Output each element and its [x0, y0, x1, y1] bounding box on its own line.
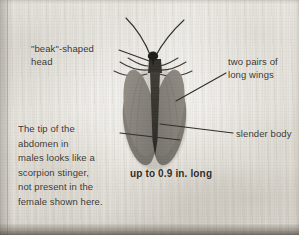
figure-page: "beak"-shaped head two pairs of long win…	[0, 0, 299, 235]
annotation-slender-body: slender body	[236, 127, 299, 140]
annotation-abdomen-tip: The tip of the abdomen in males looks li…	[18, 122, 126, 210]
page-edge-top	[0, 0, 299, 4]
annotation-beak-shaped-head: "beak"-shaped head	[31, 42, 141, 68]
size-caption: up to 0.9 in. long	[130, 168, 212, 179]
page-gutter-line	[7, 0, 8, 235]
page-edge-bottom	[0, 224, 299, 235]
annotation-two-pairs-of-long-wings: two pairs of long wings	[228, 55, 298, 81]
page-edge-right	[293, 0, 299, 235]
